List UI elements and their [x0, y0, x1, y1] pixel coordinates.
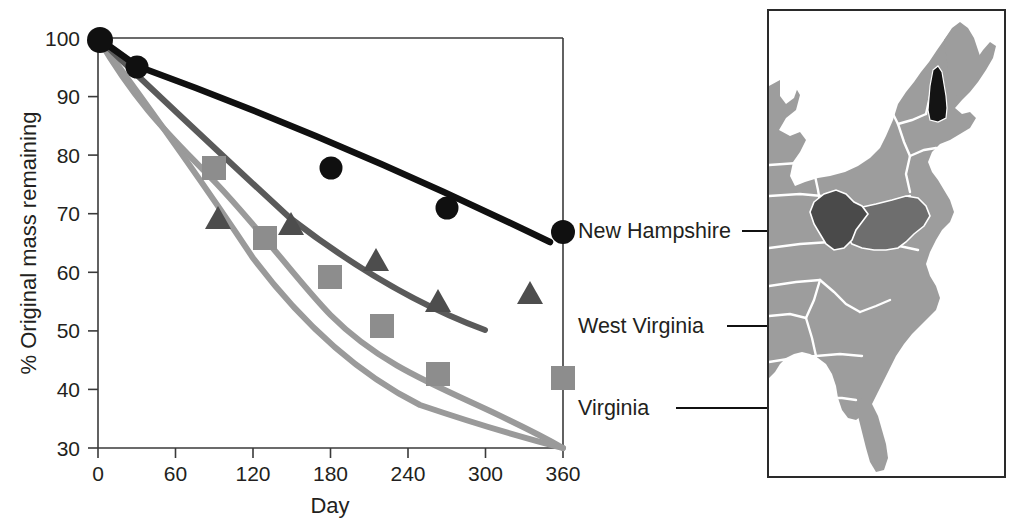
x-tick-label: 240 [390, 462, 425, 485]
y-tick-label: 80 [57, 144, 80, 167]
data-point-triangle [425, 289, 451, 312]
x-tick-label: 300 [468, 462, 503, 485]
decomposition-chart: 100 90 80 70 60 50 40 30 0 60 120 180 24… [16, 27, 581, 518]
y-axis-ticks [88, 38, 98, 448]
y-tick-labels: 100 90 80 70 60 50 40 30 [45, 27, 80, 460]
x-axis-ticks [98, 448, 563, 458]
legend-label-virginia: Virginia [578, 396, 649, 420]
locator-map [768, 10, 1005, 477]
data-point-square [370, 314, 394, 338]
y-tick-label: 100 [45, 27, 80, 50]
y-tick-label: 40 [57, 378, 80, 401]
x-tick-label: 60 [164, 462, 187, 485]
legend-label-west-virginia: West Virginia [578, 314, 704, 338]
x-tick-label: 360 [545, 462, 580, 485]
data-point-circle [126, 56, 149, 79]
data-point-square [551, 366, 575, 390]
y-tick-label: 50 [57, 319, 80, 342]
x-tick-label: 0 [92, 462, 104, 485]
fit-line-virginia [98, 38, 563, 448]
data-point-triangle [517, 281, 543, 304]
x-tick-label: 120 [235, 462, 270, 485]
figure-svg: 100 90 80 70 60 50 40 30 0 60 120 180 24… [0, 0, 1026, 529]
fit-line-new-hampshire [98, 38, 550, 242]
data-point-square [318, 265, 342, 289]
x-tick-label: 180 [313, 462, 348, 485]
data-point-circle [320, 157, 343, 180]
data-point-triangle [363, 248, 389, 271]
data-point-square [202, 156, 226, 180]
fit-line-virginia-smooth [98, 38, 563, 448]
y-tick-label: 30 [57, 437, 80, 460]
x-tick-labels: 0 60 120 180 240 300 360 [92, 462, 580, 485]
legend-label-new-hampshire: New Hampshire [578, 219, 731, 243]
y-tick-label: 90 [57, 85, 80, 108]
data-point-square [253, 226, 277, 250]
data-point-square [426, 362, 450, 386]
plot-frame [98, 38, 563, 448]
figure-root: 100 90 80 70 60 50 40 30 0 60 120 180 24… [0, 0, 1026, 529]
series-new-hampshire-markers [87, 27, 575, 244]
data-point-circle [436, 197, 459, 220]
data-point-circle [551, 220, 575, 244]
x-axis-title: Day [310, 493, 349, 518]
data-point-circle [87, 27, 113, 53]
y-tick-label: 70 [57, 202, 80, 225]
y-axis-title: % Original mass remaining [16, 112, 41, 375]
y-tick-label: 60 [57, 261, 80, 284]
